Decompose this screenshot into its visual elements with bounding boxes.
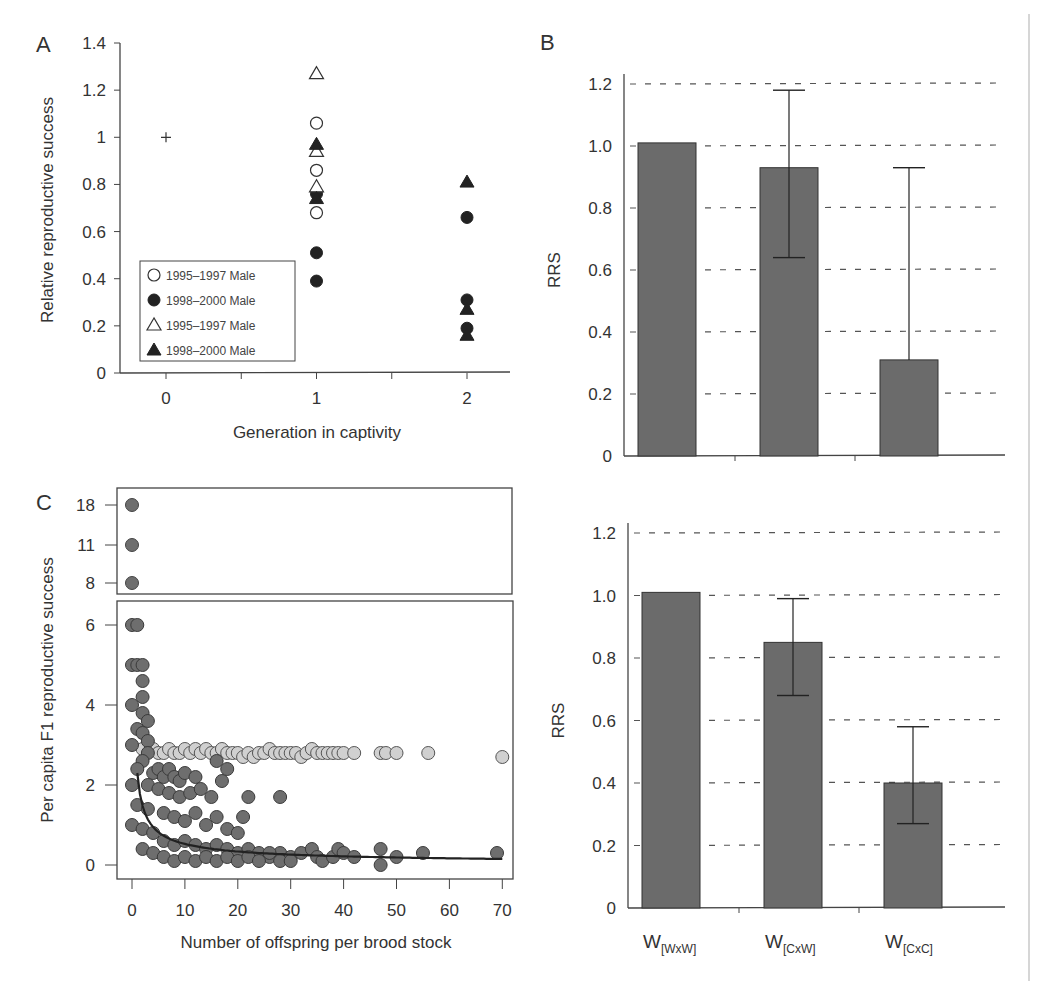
data-point xyxy=(205,791,218,804)
y-axis-title: RRS xyxy=(545,252,564,288)
figure-canvas: A B C 00.20.40.60.811.21.4012Generation … xyxy=(0,0,1052,981)
data-point xyxy=(126,577,139,590)
panel-letter-a: A xyxy=(36,32,51,57)
data-point xyxy=(422,747,435,760)
legend-label: 1998–2000 Male xyxy=(166,294,256,308)
data-point xyxy=(461,211,473,223)
y-tick-label: 18 xyxy=(76,496,95,515)
x-tick-label: 20 xyxy=(228,901,247,920)
data-point xyxy=(311,207,323,219)
x-axis-title: Number of offspring per brood stock xyxy=(181,933,452,952)
data-point xyxy=(215,775,228,788)
legend-marker-icon xyxy=(148,269,160,281)
data-point xyxy=(311,275,323,287)
x-tick-label: 0 xyxy=(127,901,136,920)
y-tick-label: 0.2 xyxy=(592,837,616,856)
y-tick-label: 0.8 xyxy=(588,199,612,218)
y-tick-label: 0.6 xyxy=(588,261,612,280)
data-point xyxy=(126,739,139,752)
lower-axis-box xyxy=(117,601,513,879)
y-tick-label: 1.0 xyxy=(592,587,616,606)
x-tick-label: 0 xyxy=(161,389,170,408)
x-axis-title: Generation in captivity xyxy=(233,423,402,442)
y-tick-label: 0.4 xyxy=(82,270,106,289)
x-tick-label: 2 xyxy=(462,389,471,408)
y-tick-label: 4 xyxy=(86,696,95,715)
x-tick-label: 70 xyxy=(493,901,512,920)
data-point xyxy=(126,779,139,792)
y-tick-label: 1.2 xyxy=(592,524,616,543)
data-point xyxy=(231,827,244,840)
data-point xyxy=(189,807,202,820)
legend-marker-icon xyxy=(148,294,160,306)
legend-label: 1995–1997 Male xyxy=(166,319,256,333)
y-tick-label: 0.8 xyxy=(592,649,616,668)
data-point xyxy=(136,659,149,672)
x-tick-label: 50 xyxy=(387,901,406,920)
y-tick-label: 0 xyxy=(603,447,612,466)
y-tick-label: 0 xyxy=(97,364,106,383)
x-tick-label: 1 xyxy=(312,389,321,408)
panel-c-scatter: 811180246010203040506070Number of offspr… xyxy=(38,488,513,952)
y-tick-label: 0.8 xyxy=(82,175,106,194)
data-point xyxy=(311,247,323,259)
data-point xyxy=(284,855,297,868)
panel-letter-c: C xyxy=(36,490,52,515)
data-point xyxy=(374,843,387,856)
data-point xyxy=(310,180,324,192)
data-point xyxy=(242,791,255,804)
data-point xyxy=(237,811,250,824)
data-point xyxy=(310,137,324,149)
x-category-label: W[WxW] xyxy=(643,931,696,956)
data-point xyxy=(496,751,509,764)
data-point xyxy=(491,847,504,860)
y-tick-label: 1.2 xyxy=(82,81,106,100)
y-tick-label: 8 xyxy=(86,574,95,593)
data-point xyxy=(460,175,474,187)
y-tick-label: 0.6 xyxy=(82,223,106,242)
legend: 1995–1997 Male1998–2000 Male1995–1997 Ma… xyxy=(140,261,295,361)
data-point xyxy=(348,747,361,760)
y-tick-label: 1.0 xyxy=(588,137,612,156)
panel-b-bottom-bar-chart: 00.20.40.60.81.01.2RRSW[WxW]W[CxW]W[CxC] xyxy=(549,523,1005,956)
y-tick-label: 1.4 xyxy=(82,34,106,53)
data-point xyxy=(136,675,149,688)
y-tick-label: 1 xyxy=(97,128,106,147)
x-category-label: W[CxC] xyxy=(885,931,933,956)
y-tick-label: 0.6 xyxy=(592,712,616,731)
x-tick-label: 30 xyxy=(281,901,300,920)
y-tick-label: 11 xyxy=(77,536,95,555)
y-tick-label: 0.2 xyxy=(588,385,612,404)
y-axis-title: RRS xyxy=(549,703,568,739)
data-point xyxy=(374,859,387,872)
data-point xyxy=(126,499,139,512)
data-point xyxy=(189,771,202,784)
y-axis-title: Per capita F1 reproductive success xyxy=(38,557,57,823)
data-point xyxy=(311,164,323,176)
x-category-label: W[CxW] xyxy=(765,931,816,956)
y-tick-label: 6 xyxy=(86,616,95,635)
panel-b-top-bar-chart: 00.20.40.60.81.01.2RRS xyxy=(545,74,1005,466)
legend-label: 1995–1997 Male xyxy=(166,269,256,283)
panel-letter-b: B xyxy=(540,30,555,55)
y-tick-label: 0.2 xyxy=(82,317,106,336)
data-point xyxy=(131,619,144,632)
data-point xyxy=(311,117,323,129)
y-tick-label: 1.2 xyxy=(588,75,612,94)
data-point xyxy=(210,811,223,824)
bar xyxy=(638,143,696,456)
upper-axis-box xyxy=(117,488,512,594)
legend-label: 1998–2000 Male xyxy=(166,344,256,358)
panel-a-scatter: 00.20.40.60.811.21.4012Generation in cap… xyxy=(38,34,510,442)
x-tick-label: 40 xyxy=(334,901,353,920)
data-point xyxy=(126,539,139,552)
data-point xyxy=(310,67,324,79)
y-tick-label: 2 xyxy=(86,776,95,795)
data-point xyxy=(221,763,234,776)
bar xyxy=(880,360,938,456)
y-axis-title: Relative reproductive success xyxy=(38,97,57,323)
data-point xyxy=(141,735,154,748)
bar xyxy=(642,592,700,908)
y-tick-label: 0.4 xyxy=(588,323,612,342)
x-tick-label: 60 xyxy=(440,901,459,920)
